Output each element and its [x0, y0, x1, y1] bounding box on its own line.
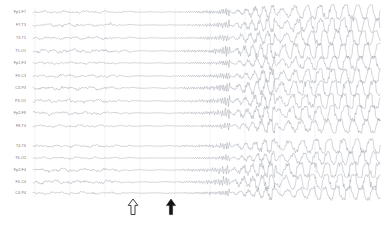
eeg-trace-fp2-f8 — [33, 106, 380, 121]
channel-label-c3-p3: C3-P3 — [2, 85, 26, 89]
eeg-trace-f8-t4 — [33, 119, 380, 134]
channel-label-fp2-f4: Fp2-F4 — [2, 167, 26, 171]
annotation-markers — [128, 199, 175, 215]
channel-label-p3-o1: P3-O1 — [2, 98, 26, 102]
eeg-traces-svg — [0, 0, 382, 227]
eeg-trace-fp1-f7 — [33, 5, 380, 20]
eeg-trace-t3-t5 — [33, 31, 380, 46]
channel-label-t5-o1: T5-O1 — [2, 48, 26, 52]
channel-label-fp2-f8: Fp2-F8 — [2, 110, 26, 114]
channel-label-t6-o2: T6-O2 — [2, 155, 26, 159]
eeg-trace-c3-p3 — [33, 81, 380, 96]
eeg-trace-f4-c4 — [33, 175, 380, 190]
open-arrow-marker — [128, 199, 138, 215]
channel-label-f7-t3: F7-T3 — [2, 22, 26, 26]
channel-label-f8-t4: F8-T4 — [2, 123, 26, 127]
eeg-trace-group — [33, 5, 380, 201]
solid-arrow-marker — [166, 199, 175, 215]
eeg-trace-f7-t3 — [33, 18, 380, 33]
eeg-trace-t6-o2 — [33, 151, 380, 166]
eeg-trace-fp1-f3 — [33, 56, 380, 71]
eeg-trace-t5-o1 — [33, 44, 380, 59]
eeg-trace-p3-o1 — [33, 94, 380, 109]
channel-label-f3-c3: F3-C3 — [2, 73, 26, 77]
channel-label-t3-t5: T3-T5 — [2, 35, 26, 39]
channel-label-f4-c4: F4-C4 — [2, 179, 26, 183]
eeg-chart-area: Fp1-F7F7-T3T3-T5T5-O1Fp1-F3F3-C3C3-P3P3-… — [0, 0, 382, 227]
channel-label-fp1-f7: Fp1-F7 — [2, 9, 26, 13]
eeg-trace-f3-c3 — [33, 69, 380, 84]
eeg-recording-page: Fp1-F7F7-T3T3-T5T5-O1Fp1-F3F3-C3C3-P3P3-… — [0, 0, 382, 227]
eeg-trace-c4-p4 — [33, 186, 380, 201]
channel-label-c4-p4: C4-P4 — [2, 190, 26, 194]
channel-label-fp1-f3: Fp1-F3 — [2, 60, 26, 64]
channel-label-t4-t6: T4-T6 — [2, 143, 26, 147]
